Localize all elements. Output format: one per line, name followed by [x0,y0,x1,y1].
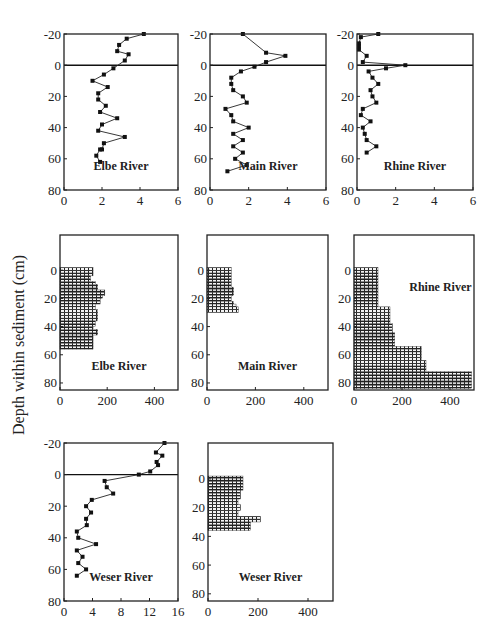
bar [354,335,395,338]
bar [60,344,93,347]
bar [354,279,378,282]
x-tick-label: 400 [298,604,318,619]
bar [60,313,98,316]
data-point-marker [100,122,104,126]
weser-line-series-line [77,443,165,576]
y-tick-label: 0 [55,467,62,482]
bar [208,479,243,482]
bar [354,332,395,335]
y-tick-label: 40 [194,120,207,135]
data-point-marker [374,144,378,148]
bar [207,282,231,285]
y-tick-label: 80 [192,586,205,601]
data-point-marker [115,49,119,53]
data-point-marker [374,101,378,105]
y-tick-label: 60 [341,151,354,166]
data-point-marker [102,73,106,77]
bar [60,276,91,279]
data-point-marker [90,498,94,502]
data-point-marker [102,141,106,145]
data-point-marker [127,52,131,56]
y-tick-label: 0 [345,263,352,278]
x-tick-label: 0 [205,604,212,619]
data-point-marker [111,66,115,70]
x-tick-label: 6 [323,193,330,208]
x-tick-label: 400 [294,393,314,408]
data-point-marker [125,37,129,41]
data-point-marker [283,54,287,58]
bar [354,358,421,361]
data-point-marker [361,126,365,130]
chart-title: Rhine River [384,159,447,173]
chart-title: Main River [239,159,299,173]
bar [60,324,95,327]
bar [208,502,238,505]
data-point-marker [85,523,89,527]
x-tick-label: 6 [175,193,182,208]
bar [208,525,251,528]
data-point-marker [96,129,100,133]
bar [354,338,395,341]
data-point-marker [96,91,100,95]
bar [207,284,231,287]
bar [60,327,93,330]
bar [354,329,392,332]
y-tick-label: 80 [48,594,61,609]
data-point-marker [370,76,374,80]
bar [60,270,93,273]
bar [207,270,231,273]
data-point-marker [384,66,388,70]
bar [354,377,472,380]
data-point-marker [241,94,245,98]
bar [208,528,251,531]
x-tick-label: 2 [99,193,106,208]
bar [354,296,378,299]
chart-title: Weser River [89,570,153,584]
data-point-marker [123,135,127,139]
bar [208,519,261,522]
data-point-marker [229,82,233,86]
chart-title: Elbe River [94,159,150,173]
data-point-marker [229,113,233,117]
bar [354,327,392,330]
y-tick-label: 0 [348,58,355,73]
main-bar-bars [207,267,238,312]
data-point-marker [84,504,88,508]
bar [208,490,241,493]
data-point-marker [76,536,80,540]
data-point-marker [98,147,102,151]
y-tick-label: 40 [48,120,61,135]
data-point-marker [370,94,374,98]
data-point-marker [361,60,365,64]
bar [207,298,231,301]
bar [208,516,261,519]
y-tick-label: 40 [341,120,354,135]
bar [354,293,378,296]
y-tick-label: 80 [341,183,354,198]
bar [207,307,238,310]
bar [60,284,98,287]
y-tick-label: 0 [55,58,62,73]
y-tick-label: 40 [191,319,204,334]
x-tick-label: 0 [61,604,68,619]
x-tick-label: 0 [204,393,211,408]
data-point-marker [252,65,256,69]
plot-canvas: -200204060800246Elbe River-2002040608002… [0,0,497,643]
bar [354,346,421,349]
bar [60,267,93,270]
data-point-marker [75,529,79,533]
x-tick-label: 0 [57,393,64,408]
y-tick-label: 20 [341,89,354,104]
bar [354,386,472,389]
data-point-marker [123,59,127,63]
data-point-marker [365,151,369,155]
bar [207,287,234,290]
x-tick-label: 4 [284,193,291,208]
bar [60,315,98,318]
bar [208,493,241,496]
bar [60,318,98,321]
x-tick-label: 4 [431,193,438,208]
data-point-marker [223,107,227,111]
bar [208,499,238,502]
x-tick-label: 400 [440,393,460,408]
